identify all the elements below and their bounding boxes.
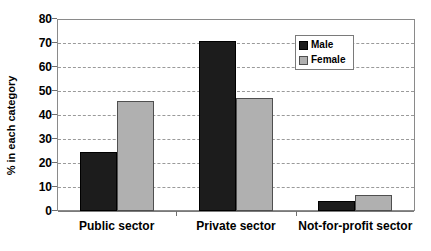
y-tick-label: 60 [20, 61, 52, 73]
gridline [58, 19, 414, 20]
bar-male-2 [318, 201, 355, 211]
legend-item-female: Female [299, 53, 350, 67]
x-axis-separator [176, 211, 177, 216]
y-tick-mark [52, 186, 57, 187]
bar-female-0 [117, 101, 154, 211]
legend-item-male: Male [299, 38, 350, 52]
bar-female-2 [355, 195, 392, 211]
y-tick-mark [52, 18, 57, 19]
bar-male-1 [199, 41, 236, 211]
legend-swatch-icon [299, 41, 308, 50]
y-tick-label: 50 [20, 85, 52, 97]
legend: MaleFemale [295, 35, 354, 70]
x-tick-label: Public sector [57, 219, 176, 233]
y-tick-mark [52, 90, 57, 91]
y-tick-mark [52, 162, 57, 163]
y-tick-label: 30 [20, 133, 52, 145]
bar-female-1 [236, 98, 273, 211]
y-tick-mark [52, 66, 57, 67]
y-tick-mark [52, 210, 57, 211]
legend-label: Female [311, 55, 345, 65]
x-axis-separator [296, 211, 297, 216]
legend-label: Male [311, 40, 333, 50]
y-tick-label: 20 [20, 157, 52, 169]
y-tick-label: 0 [20, 205, 52, 217]
bar-male-0 [80, 152, 117, 211]
x-tick-label: Not-for-profit sector [296, 219, 415, 233]
y-tick-label: 70 [20, 37, 52, 49]
y-tick-mark [52, 138, 57, 139]
y-tick-mark [52, 42, 57, 43]
y-tick-label: 10 [20, 181, 52, 193]
legend-swatch-icon [299, 56, 308, 65]
gridline [58, 91, 414, 92]
gridline [58, 67, 414, 68]
y-axis-title: % in each category [0, 0, 22, 251]
y-tick-label: 80 [20, 13, 52, 25]
y-tick-mark [52, 114, 57, 115]
gridline [58, 211, 414, 212]
bar-chart: % in each category 01020304050607080 Pub… [0, 0, 431, 251]
y-tick-label: 40 [20, 109, 52, 121]
x-tick-label: Private sector [176, 219, 295, 233]
gridline [58, 43, 414, 44]
